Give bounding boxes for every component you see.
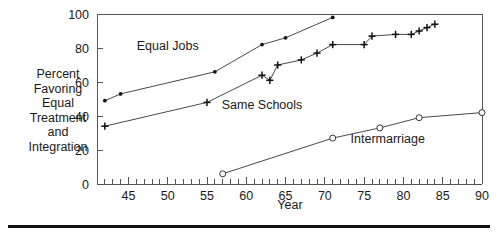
series-label: Intermarriage — [351, 132, 425, 146]
marker-point — [258, 72, 265, 79]
marker-point — [213, 70, 217, 74]
x-tick-label: 75 — [357, 189, 371, 203]
x-tick-label: 70 — [318, 189, 332, 203]
marker-point — [220, 171, 226, 177]
marker-point — [329, 41, 336, 48]
y-tick-label: 80 — [75, 42, 89, 56]
marker-point — [203, 99, 210, 106]
x-axis-title: Year — [277, 198, 302, 212]
series-label: Same Schools — [222, 98, 303, 112]
y-axis-title-line: Percent — [36, 67, 80, 81]
y-axis-title-line: Treatment — [30, 111, 87, 125]
marker-point — [313, 50, 320, 57]
x-tick-label: 55 — [200, 189, 214, 203]
marker-point — [298, 56, 305, 63]
marker-point — [284, 36, 288, 40]
bottom-horizontal-rule — [8, 225, 490, 228]
marker-point — [479, 110, 485, 116]
marker-point — [392, 31, 399, 38]
x-tick-label: 90 — [475, 189, 489, 203]
y-axis-title-line: Equal — [42, 96, 74, 110]
marker-point — [274, 61, 281, 68]
figure-container: 45505560657075808590 020406080100 Equal … — [0, 0, 500, 234]
y-tick-label: 100 — [68, 8, 89, 22]
y-axis-ticks — [97, 14, 103, 184]
marker-point — [101, 123, 108, 130]
marker-point — [431, 21, 438, 28]
y-axis-title-line: and — [48, 125, 69, 139]
y-tick-label: 0 — [82, 178, 89, 192]
marker-point — [119, 92, 123, 96]
y-axis-title-line: Integration — [28, 140, 87, 154]
series-label: Equal Jobs — [137, 39, 199, 53]
marker-point — [103, 99, 107, 103]
marker-point — [266, 77, 273, 84]
marker-point — [416, 115, 422, 121]
series-line-0 — [105, 17, 333, 100]
x-axis-ticks — [97, 177, 482, 184]
marker-point — [331, 16, 335, 20]
marker-point — [330, 135, 336, 141]
y-axis-title-line: Favoring — [34, 82, 83, 96]
y-axis-title: PercentFavoringEqualTreatmentandIntegrat… — [28, 67, 87, 154]
x-tick-label: 45 — [121, 189, 135, 203]
marker-point — [260, 43, 264, 47]
x-axis-tick-labels: 45505560657075808590 — [121, 189, 489, 203]
marker-point — [408, 31, 415, 38]
x-tick-label: 50 — [161, 189, 175, 203]
x-tick-label: 80 — [396, 189, 410, 203]
marker-point — [423, 24, 430, 31]
marker-point — [416, 27, 423, 34]
x-tick-label: 60 — [239, 189, 253, 203]
x-tick-label: 85 — [436, 189, 450, 203]
marker-point — [377, 125, 383, 131]
line-chart: 45505560657075808590 020406080100 Equal … — [0, 0, 500, 234]
